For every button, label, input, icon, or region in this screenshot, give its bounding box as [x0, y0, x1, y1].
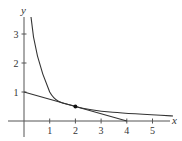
- xtick-label-5: 5: [150, 125, 155, 136]
- curve-y-equals-1-over-x-main: [31, 17, 173, 116]
- ytick-label-1: 1: [14, 87, 19, 98]
- curve-reciprocal: [31, 14, 76, 107]
- chart: 1 2 3 4 5 1 2 3 x y: [0, 0, 182, 141]
- xtick-label-3: 3: [99, 125, 104, 136]
- y-axis-label: y: [20, 4, 26, 16]
- tangency-point: [74, 105, 78, 109]
- xtick-label-4: 4: [124, 125, 129, 136]
- ytick-label-3: 3: [14, 29, 19, 40]
- xtick-label-1: 1: [47, 125, 52, 136]
- ytick-label-2: 2: [14, 58, 19, 69]
- xtick-label-2: 2: [73, 125, 78, 136]
